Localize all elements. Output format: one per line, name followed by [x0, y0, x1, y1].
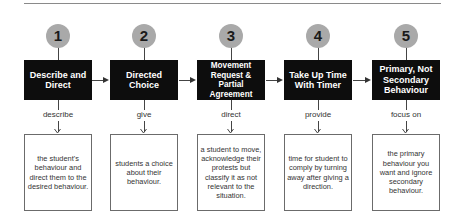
arrow-down-icon: [314, 127, 321, 134]
connector-line: [58, 100, 59, 110]
step-1: 1 Describe and Direct describe the stude…: [24, 0, 92, 223]
connector-line: [406, 100, 407, 110]
connector-line: [406, 46, 407, 60]
arrow-right-icon: [353, 79, 372, 81]
step-number-badge: 4: [306, 24, 330, 48]
step-5: 5 Primary, Not Secondary Behaviour focus…: [372, 0, 440, 223]
connector-line: [231, 46, 232, 60]
step-description-box: a student to move, acknowledge their pro…: [197, 134, 265, 211]
arrow-down-icon: [402, 127, 409, 134]
step-title-box: Take Up Time With Timer: [284, 60, 352, 100]
arrow-down-icon: [54, 127, 61, 134]
step-verb-label: focus on: [362, 110, 450, 120]
connector-line: [318, 46, 319, 60]
step-number-badge: 2: [132, 24, 156, 48]
step-4: 4 Take Up Time With Timer provide time f…: [284, 0, 352, 223]
arrow-down-icon: [140, 127, 147, 134]
step-3: 3 Movement Request & Partial Agreement d…: [197, 0, 265, 223]
step-description-box: the student's behaviour and direct them …: [24, 134, 92, 211]
step-verb-label: provide: [274, 110, 362, 120]
step-description-box: time for student to comply by turning aw…: [284, 134, 352, 211]
connector-line: [144, 46, 145, 60]
step-number-badge: 1: [46, 24, 70, 48]
step-title-box: Directed Choice: [110, 60, 178, 100]
connector-line: [58, 46, 59, 60]
step-verb-label: direct: [187, 110, 275, 120]
step-description-box: the primary behaviour you want and ignor…: [372, 134, 440, 211]
step-number-badge: 3: [219, 24, 243, 48]
arrow-right-icon: [179, 79, 197, 81]
connector-line: [231, 100, 232, 110]
connector-line: [144, 100, 145, 110]
step-number-badge: 5: [394, 24, 418, 48]
step-verb-label: give: [100, 110, 188, 120]
step-title-box: Primary, Not Secondary Behaviour: [372, 60, 440, 100]
step-2: 2 Directed Choice give students a choice…: [110, 0, 178, 223]
connector-line: [318, 100, 319, 110]
arrow-right-icon: [92, 79, 110, 81]
arrow-right-icon: [266, 79, 284, 81]
step-description-box: students a choice about their behaviour.: [110, 134, 178, 211]
step-title-box: Describe and Direct: [24, 60, 92, 100]
step-verb-label: describe: [14, 110, 102, 120]
step-title-box: Movement Request & Partial Agreement: [197, 60, 265, 100]
arrow-down-icon: [227, 127, 234, 134]
